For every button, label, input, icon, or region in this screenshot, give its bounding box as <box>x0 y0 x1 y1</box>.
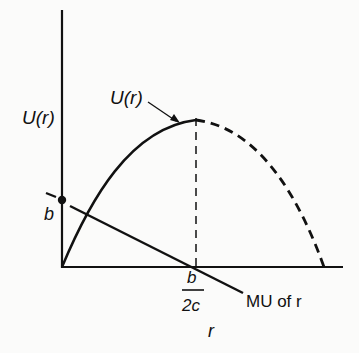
curve-label: U(r) <box>110 87 143 108</box>
utility-curve-dashed <box>196 120 324 267</box>
mu-line <box>70 206 243 293</box>
arrowhead-icon <box>170 114 180 123</box>
peak-x-denominator: 2c <box>181 296 200 315</box>
mu-line-label-text: MU of r <box>246 292 302 311</box>
intercept-dot <box>58 196 66 204</box>
utility-curve-solid <box>62 120 196 267</box>
mu-line-dashed-start <box>46 193 56 197</box>
peak-x-numerator: b <box>187 268 196 287</box>
mu-line-label: MU of r <box>246 292 302 311</box>
intercept-label: b <box>44 204 54 224</box>
x-axis-label: r <box>208 321 215 341</box>
y-axis-label: U(r) <box>22 107 55 128</box>
utility-diagram: U(r) U(r) b b 2c MU of r r <box>0 0 359 353</box>
